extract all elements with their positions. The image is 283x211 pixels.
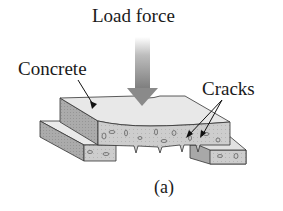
figure-caption: (a) [154, 177, 174, 198]
cracks-label: Cracks [202, 78, 255, 100]
load-force-label: Load force [92, 5, 175, 27]
concrete-label: Concrete [18, 58, 87, 80]
load-arrow-icon [127, 37, 158, 106]
concrete-beam-diagram [0, 0, 283, 211]
